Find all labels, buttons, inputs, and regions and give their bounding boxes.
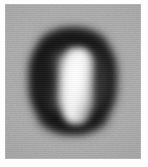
blob-left-limb [33, 42, 59, 116]
image-canvas: Blurry low-resolution grayscale image of… [0, 0, 148, 167]
image-alt-text: Blurry low-resolution grayscale image of… [0, 0, 1, 1]
scan-panel [5, 4, 141, 159]
bright-stripe-highlight [65, 54, 85, 100]
